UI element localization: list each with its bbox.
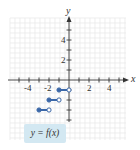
x-axis-label: x: [131, 74, 135, 84]
x-tick-label-2: 2: [87, 84, 92, 93]
y-tick-label-2: 2: [61, 56, 66, 65]
y-tick-label-4: 4: [61, 36, 66, 45]
series-step-function: [37, 88, 71, 112]
x-tick-label-4: 4: [107, 84, 112, 93]
x-tick-label-neg4: -4: [24, 84, 32, 93]
callout-label: y = f(x): [24, 128, 66, 138]
function-callout: y = f(x): [24, 124, 66, 143]
y-axis-label: y: [66, 6, 70, 16]
step-function-plot: [0, 0, 140, 150]
x-tick-label-neg2: -2: [44, 84, 52, 93]
axes: [8, 16, 129, 122]
